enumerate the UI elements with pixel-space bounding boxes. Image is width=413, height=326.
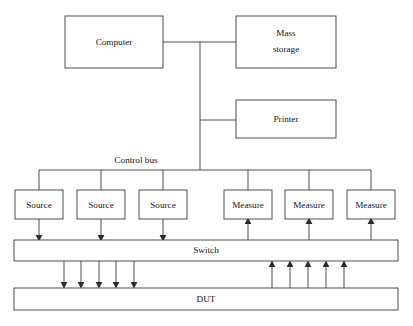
label-computer: Computer bbox=[96, 37, 133, 47]
diagram-canvas: Computer Mass storage Printer Control bu… bbox=[0, 0, 413, 326]
switch-to-measure-arrows bbox=[245, 218, 375, 241]
label-printer: Printer bbox=[273, 114, 298, 124]
arrow-head-dut-down-4 bbox=[113, 282, 120, 289]
arrow-head-dut-up-5 bbox=[341, 261, 348, 268]
label-mass-storage-line1: Mass bbox=[276, 28, 296, 38]
label-source-1: Source bbox=[26, 200, 52, 210]
arrow-head-dut-down-5 bbox=[131, 282, 138, 289]
label-source-3: Source bbox=[150, 200, 176, 210]
label-measure-3: Measure bbox=[355, 200, 387, 210]
source-to-switch-arrows bbox=[36, 219, 167, 242]
arrow-head-dut-down-3 bbox=[96, 282, 103, 289]
label-measure-1: Measure bbox=[232, 200, 264, 210]
block-diagram: Computer Mass storage Printer Control bu… bbox=[0, 0, 413, 326]
node-mass-storage[interactable] bbox=[236, 16, 336, 68]
arrow-head-dut-up-4 bbox=[323, 261, 330, 268]
label-control-bus: Control bus bbox=[114, 155, 158, 165]
label-switch: Switch bbox=[193, 245, 219, 255]
arrow-head-dut-up-1 bbox=[269, 261, 276, 268]
arrow-head-dut-down-1 bbox=[61, 282, 68, 289]
switch-to-dut-arrows bbox=[61, 261, 138, 289]
dut-to-switch-arrows bbox=[269, 261, 348, 289]
label-source-2: Source bbox=[88, 200, 114, 210]
arrow-head-dut-up-3 bbox=[305, 261, 312, 268]
label-dut: DUT bbox=[197, 294, 216, 304]
arrow-head-dut-down-2 bbox=[78, 282, 85, 289]
label-measure-2: Measure bbox=[293, 200, 325, 210]
label-mass-storage-line2: storage bbox=[273, 44, 300, 54]
arrow-head-dut-up-2 bbox=[287, 261, 294, 268]
